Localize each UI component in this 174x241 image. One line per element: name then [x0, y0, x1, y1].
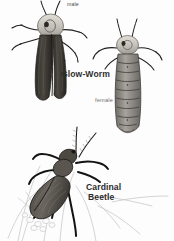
label-male: male: [67, 1, 79, 7]
cardinal-eye: [71, 149, 75, 153]
title-cardinal-line2: Beetle: [88, 192, 121, 202]
female-eye: [122, 41, 126, 46]
male-eye: [44, 22, 49, 28]
illustration-plate: [0, 0, 174, 241]
title-cardinal-line1: Cardinal: [86, 182, 121, 192]
title-cardinal-beetle: Cardinal Beetle: [86, 182, 121, 202]
label-female: female: [95, 97, 113, 103]
title-glow-worm: Glow-Worm: [61, 69, 110, 79]
female-pronotum: [117, 36, 139, 55]
male-pronotum: [38, 14, 64, 38]
